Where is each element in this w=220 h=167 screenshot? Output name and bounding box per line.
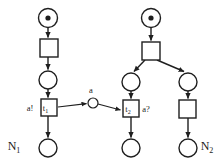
label-net-n2-base: N [201, 139, 210, 153]
place-layer [39, 9, 198, 158]
token-n1-initial [45, 15, 50, 20]
petri-net-figure: a! t1 a t2 a? N1 N2 [0, 0, 220, 167]
place-n2-left[interactable] [122, 73, 140, 91]
label-send-action: a! [27, 103, 34, 113]
label-net-n2-sub: 2 [209, 146, 213, 155]
place-n2-right[interactable] [179, 73, 197, 91]
arc-t2top-p2left [134, 60, 145, 72]
place-n1-mid[interactable] [39, 71, 57, 89]
petri-net-canvas: a! t1 a t2 a? N1 N2 [0, 0, 220, 167]
label-net-n1-sub: 1 [16, 146, 20, 155]
arc-t1-channel [58, 104, 87, 107]
arc-channel-t2 [98, 104, 121, 110]
transition-n1-top[interactable] [40, 39, 58, 57]
arc-layer [48, 28, 188, 138]
label-net-n1-base: N [8, 139, 17, 153]
label-channel-a: a [89, 85, 93, 95]
place-n2-right-final[interactable] [179, 139, 197, 157]
label-net-n2: N2 [201, 139, 214, 155]
label-net-n1: N1 [8, 139, 21, 155]
label-transition-t1-sub: 1 [45, 108, 48, 114]
token-n2-initial [148, 15, 153, 20]
transition-n2-top[interactable] [142, 42, 160, 60]
label-receive-action: a? [142, 104, 150, 114]
transition-n2-right[interactable] [179, 100, 196, 118]
label-transition-t2-sub: 2 [128, 109, 131, 115]
place-n1-final[interactable] [39, 139, 57, 157]
arc-t2top-p2right [157, 60, 184, 72]
place-n2-left-final[interactable] [122, 139, 140, 157]
place-channel-a[interactable] [88, 98, 98, 108]
